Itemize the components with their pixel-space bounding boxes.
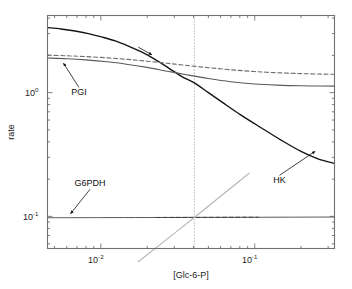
g6pdh-label: G6PDH	[74, 178, 105, 188]
figure-background	[0, 0, 352, 289]
chart-canvas: PGIG6PDHHK 10-210-110010-1 [Glc-6-P] rat…	[0, 0, 352, 289]
x-axis-title: [Glc-6-P]	[173, 270, 209, 280]
pgi-label: PGI	[71, 87, 87, 97]
hk-label: HK	[273, 175, 286, 185]
y-axis-title: rate	[6, 124, 16, 140]
chart-figure: PGIG6PDHHK 10-210-110010-1 [Glc-6-P] rat…	[0, 0, 352, 289]
